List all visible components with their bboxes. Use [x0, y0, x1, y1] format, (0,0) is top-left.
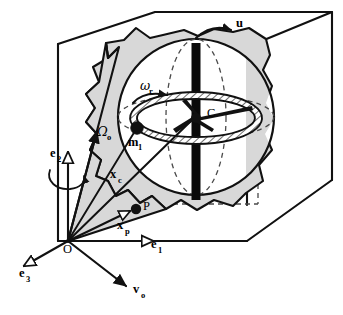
figure-canvas: u ω r C m 1 Ω o e 2 x c P x p e 1 O e 3 …	[0, 0, 343, 315]
label-u: u	[236, 16, 243, 30]
label-m1-subscript: 1	[138, 142, 142, 152]
label-x-c: x	[110, 167, 117, 181]
label-O: O	[63, 242, 72, 256]
label-Omega-o-subscript: o	[107, 132, 111, 142]
eccentric-mass-marker	[131, 122, 143, 134]
label-x-p: x	[117, 218, 124, 232]
label-e1-subscript: 1	[158, 245, 162, 255]
label-e3: e	[19, 266, 25, 280]
label-x-p-subscript: p	[125, 226, 130, 236]
label-v-o: v	[133, 282, 140, 296]
label-e1: e	[151, 237, 157, 251]
rotor-hub	[191, 113, 201, 123]
diagram-svg: u ω r C m 1 Ω o e 2 x c P x p e 1 O e 3 …	[0, 0, 343, 315]
label-P: P	[143, 199, 150, 213]
point-P-marker	[131, 204, 141, 214]
label-C: C	[207, 106, 215, 120]
label-v-o-subscript: o	[141, 290, 145, 300]
label-e2: e	[50, 146, 56, 160]
label-e3-subscript: 3	[26, 274, 30, 284]
label-x-c-subscript: c	[118, 175, 122, 185]
label-omega-r-subscript: r	[149, 86, 153, 96]
label-e2-subscript: 2	[57, 154, 61, 164]
